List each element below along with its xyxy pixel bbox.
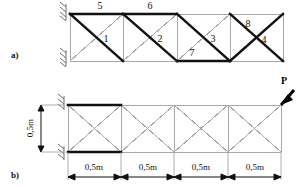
load-arrow-p <box>281 90 294 105</box>
support-top-left-b <box>58 94 64 110</box>
member-label-8: 8 <box>246 18 251 29</box>
member-label-4: 4 <box>262 34 267 45</box>
span-label-3: 0,5m <box>192 162 210 172</box>
load-label-p: P <box>281 75 287 86</box>
panel-b-supports <box>58 94 64 160</box>
member-label-7: 7 <box>190 47 195 58</box>
truss-figure-svg: 1 2 3 4 5 6 7 8 a) <box>0 0 296 187</box>
truss-figure-root: 1 2 3 4 5 6 7 8 a) <box>0 0 296 187</box>
panel-a-group: 1 2 3 4 5 6 7 8 a) <box>11 0 283 67</box>
span-label-4: 0,5m <box>246 162 264 172</box>
member-label-2: 2 <box>158 33 163 44</box>
height-dimension-label: 0,5m <box>25 119 35 137</box>
panel-a-caption: a) <box>11 50 19 60</box>
support-top-left-a <box>60 2 66 21</box>
panel-b-group: P 0,5m <box>11 75 294 180</box>
support-bottom-left-a <box>60 48 66 67</box>
height-dimension <box>38 105 64 152</box>
panel-b-caption: b) <box>11 170 19 180</box>
member-label-5: 5 <box>98 0 103 11</box>
panel-a-supports <box>60 2 66 67</box>
member-label-3: 3 <box>211 33 216 44</box>
member-label-1: 1 <box>104 33 109 44</box>
span-label-2: 0,5m <box>139 162 157 172</box>
panel-b-light-members <box>68 105 281 152</box>
member-label-6: 6 <box>148 0 153 11</box>
panel-a-light-members <box>70 14 283 61</box>
span-dimension-labels: 0,5m 0,5m 0,5m 0,5m <box>85 162 264 172</box>
span-label-1: 0,5m <box>85 162 103 172</box>
